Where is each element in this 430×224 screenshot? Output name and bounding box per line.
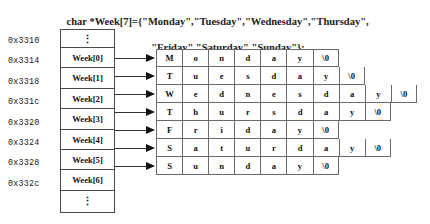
char-cell: d	[234, 157, 260, 175]
char-cell: s	[234, 67, 260, 85]
address-label: 0x3328	[8, 158, 60, 169]
char-cell: y	[286, 49, 312, 67]
arrow-head-icon	[146, 162, 155, 170]
pointer-arrow-week-6	[115, 162, 156, 171]
char-cell: y	[286, 121, 312, 139]
char-cell: d	[286, 139, 312, 157]
char-cell: u	[182, 157, 208, 175]
char-cell: r	[260, 139, 286, 157]
arrow-head-icon	[146, 72, 155, 80]
char-cell: a	[313, 139, 339, 157]
char-cell: y	[313, 67, 339, 85]
arrow-shaft	[115, 130, 148, 131]
char-cell: M	[156, 49, 182, 67]
string-row-monday: Monday\0	[156, 49, 339, 67]
char-cell: W	[156, 85, 182, 103]
pointer-arrow-week-1	[115, 72, 156, 81]
char-cell: a	[260, 157, 286, 175]
char-cell: y	[339, 139, 365, 157]
array-cell-week-4: Week[4]	[61, 130, 114, 150]
pointer-arrow-week-0	[115, 54, 156, 63]
char-cell: a	[182, 139, 208, 157]
char-cell: u	[234, 139, 260, 157]
memory-address-column: 0x33100x33140x33180x331c0x33200x33240x33…	[8, 29, 60, 213]
array-cell-week-5: Week[5]	[61, 150, 114, 170]
char-cell: d	[234, 121, 260, 139]
char-cell: d	[234, 49, 260, 67]
array-cell-week-0: Week[0]	[61, 48, 114, 68]
char-cell: r	[182, 121, 208, 139]
arrow-shaft	[115, 58, 148, 59]
arrow-shaft	[115, 148, 148, 149]
char-cell: e	[260, 85, 286, 103]
string-row-sunday: Sunday\0	[156, 157, 339, 175]
string-row-saturday: Saturday\0	[156, 139, 391, 157]
char-cell: t	[208, 139, 234, 157]
char-cell: S	[156, 157, 182, 175]
string-row-wednesday: Wednesday\0	[156, 85, 417, 103]
code-line-1: char *Week[7]={"Monday","Tuesday","Wedne…	[67, 16, 369, 27]
arrow-shaft	[115, 94, 148, 95]
address-label: 0x332c	[8, 179, 60, 190]
char-cell: n	[208, 157, 234, 175]
char-cell: y	[286, 157, 312, 175]
pointer-arrow-week-5	[115, 144, 156, 153]
array-cell-week-6: Week[6]	[61, 170, 114, 190]
char-cell: a	[286, 67, 312, 85]
char-cell: \0	[365, 103, 391, 121]
pointer-array-box: ⋮Week[0]Week[1]Week[2]Week[3]Week[4]Week…	[60, 29, 115, 213]
char-cell: \0	[313, 121, 339, 139]
char-cell: n	[234, 85, 260, 103]
address-label: 0x3314	[8, 56, 60, 67]
char-cell: a	[313, 103, 339, 121]
string-character-grid: Monday\0Tuesday\0Wednesday\0Thursday\0Fr…	[156, 49, 418, 175]
pointer-arrow-week-3	[115, 108, 156, 117]
char-cell: i	[208, 121, 234, 139]
char-cell: s	[260, 103, 286, 121]
arrow-head-icon	[146, 108, 155, 116]
array-cell-week-1: Week[1]	[61, 68, 114, 88]
char-cell: y	[339, 103, 365, 121]
char-cell: u	[182, 67, 208, 85]
pointer-arrow-week-4	[115, 126, 156, 135]
char-cell: d	[313, 85, 339, 103]
char-cell: r	[234, 103, 260, 121]
char-cell: T	[156, 67, 182, 85]
char-cell: \0	[313, 49, 339, 67]
pointer-arrow-week-2	[115, 90, 156, 99]
char-cell: y	[365, 85, 391, 103]
char-cell: h	[182, 103, 208, 121]
array-ellipsis-top: ⋮	[61, 30, 114, 48]
char-cell: S	[156, 139, 182, 157]
address-label: 0x3320	[8, 118, 60, 129]
char-cell: \0	[339, 67, 365, 85]
string-row-thursday: Thursday\0	[156, 103, 391, 121]
address-label: 0x3310	[8, 36, 60, 47]
char-cell: d	[208, 85, 234, 103]
arrow-head-icon	[146, 126, 155, 134]
string-row-friday: Friday\0	[156, 121, 339, 139]
arrow-head-icon	[146, 54, 155, 62]
vertical-ellipsis-icon: ⋮	[82, 195, 93, 207]
char-cell: a	[260, 49, 286, 67]
address-label: 0x3318	[8, 77, 60, 88]
char-cell: n	[208, 49, 234, 67]
array-cell-week-2: Week[2]	[61, 89, 114, 109]
char-cell: \0	[391, 85, 417, 103]
char-cell: a	[260, 121, 286, 139]
char-cell: \0	[365, 139, 391, 157]
arrow-head-icon	[146, 90, 155, 98]
address-label: 0x3324	[8, 138, 60, 149]
char-cell: F	[156, 121, 182, 139]
char-cell: e	[182, 85, 208, 103]
char-cell: s	[286, 85, 312, 103]
char-cell: T	[156, 103, 182, 121]
char-cell: e	[208, 67, 234, 85]
array-ellipsis-bottom: ⋮	[61, 191, 114, 212]
vertical-ellipsis-icon: ⋮	[82, 33, 93, 45]
array-cell-week-3: Week[3]	[61, 109, 114, 129]
arrow-head-icon	[146, 144, 155, 152]
char-cell: d	[286, 103, 312, 121]
arrow-shaft	[115, 166, 148, 167]
arrow-shaft	[115, 76, 148, 77]
